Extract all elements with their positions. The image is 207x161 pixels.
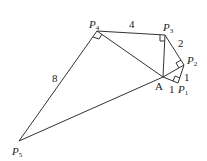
label-P1: P1 — [177, 83, 189, 97]
length-label-P2P3: 2 — [178, 37, 184, 49]
label-P2: P2 — [186, 54, 198, 68]
segment-P4-P5 — [19, 31, 97, 141]
length-label-P3P4: 4 — [129, 18, 135, 30]
spiral-right-triangles-diagram: P4 P3 P2 P1 A P5 4 2 1 1 8 — [0, 0, 207, 161]
length-label-P1P2: 1 — [184, 71, 190, 83]
label-P5: P5 — [11, 145, 23, 159]
right-angle-marker-P3 — [160, 35, 165, 41]
length-label-AP1: 1 — [169, 83, 175, 95]
segment-A-P4 — [97, 31, 163, 77]
label-P3: P3 — [162, 21, 174, 35]
label-A: A — [155, 80, 163, 92]
segment-A-P5 — [19, 77, 163, 141]
segment-P3-P4 — [97, 31, 165, 35]
length-label-P4P5: 8 — [52, 72, 58, 84]
label-P4: P4 — [88, 18, 100, 32]
